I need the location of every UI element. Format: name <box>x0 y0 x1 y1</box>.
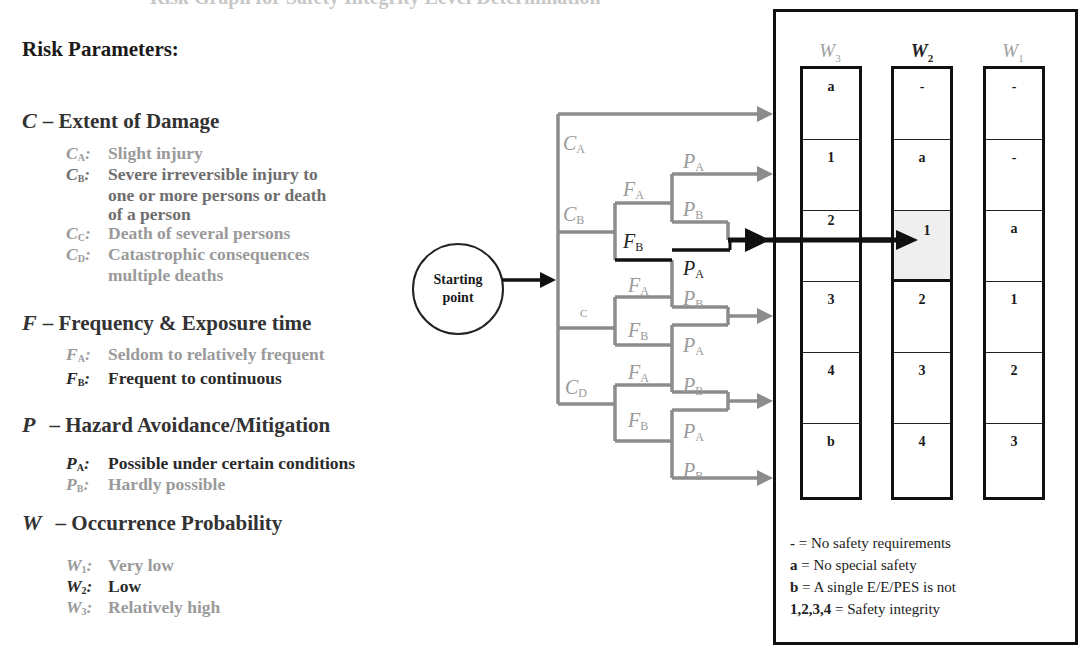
legend-item: b = A single E/E/PES is not <box>790 576 956 598</box>
cell: 2 <box>803 211 859 282</box>
col-header-w2: W2 <box>892 40 952 64</box>
cell: 3 <box>986 424 1042 495</box>
cell: 3 <box>894 353 950 424</box>
col-header-w1: W1 <box>983 40 1043 64</box>
svg-text:FA: FA <box>622 178 644 202</box>
cell: a <box>894 140 950 211</box>
cell: a <box>986 211 1042 282</box>
cell: b <box>803 424 859 495</box>
cell: 1 <box>803 140 859 211</box>
legend-item: - = No safety requirements <box>790 532 956 554</box>
svg-text:PB: PB <box>682 374 703 398</box>
svg-text:PA: PA <box>682 257 704 281</box>
svg-text:PA: PA <box>682 334 704 358</box>
svg-text:PA: PA <box>682 150 704 174</box>
svg-text:PB: PB <box>682 459 703 483</box>
cell: 2 <box>894 282 950 353</box>
svg-text:C: C <box>580 307 587 319</box>
cell: 3 <box>803 282 859 353</box>
legend-item: a = No special safety <box>790 554 956 576</box>
cell: - <box>986 69 1042 140</box>
svg-text:CB: CB <box>563 203 584 227</box>
svg-text:FB: FB <box>627 409 648 433</box>
inactive-branches <box>558 106 773 486</box>
svg-text:FB: FB <box>622 230 643 254</box>
branch-labels: CA CB C CD FA FB FA FB FA FB PA PB PA PB… <box>563 132 704 483</box>
column-w3: a 1 2 3 4 b <box>800 66 862 500</box>
cell: - <box>986 140 1042 211</box>
cell: 2 <box>986 353 1042 424</box>
svg-text:PA: PA <box>682 420 704 444</box>
svg-text:FB: FB <box>627 319 648 343</box>
cell-highlighted: 1 <box>894 211 950 282</box>
legend-item: 1,2,3,4 = Safety integrity <box>790 598 956 620</box>
cell: 4 <box>803 353 859 424</box>
cell: 1 <box>986 282 1042 353</box>
svg-text:CD: CD <box>565 376 587 400</box>
svg-text:CA: CA <box>563 132 585 156</box>
svg-text:PB: PB <box>682 198 703 222</box>
cell: 4 <box>894 424 950 495</box>
legend: - = No safety requirements a = No specia… <box>790 532 956 620</box>
svg-text:PB: PB <box>682 287 703 311</box>
cell: - <box>894 69 950 140</box>
svg-text:FA: FA <box>627 361 649 385</box>
col-header-w3: W3 <box>800 40 860 64</box>
cell: a <box>803 69 859 140</box>
column-w1: - - a 1 2 3 <box>983 66 1045 500</box>
svg-text:FA: FA <box>627 274 649 298</box>
column-w2: - a 1 2 3 4 <box>891 66 953 500</box>
